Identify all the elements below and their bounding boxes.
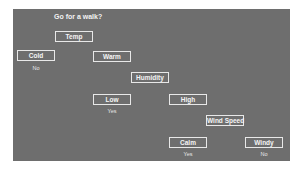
outcome-cold: No [16,65,56,71]
node-humidity: Humidity [131,72,169,83]
node-warm: Warm [93,51,131,62]
node-temp: Temp [55,31,93,42]
outcome-low: Yes [92,108,132,114]
diagram-title: Go for a walk? [54,13,102,20]
outcome-windy: No [244,151,284,157]
node-wind-speed: Wind Speed [206,115,244,126]
node-cold: Cold [17,50,55,61]
outcome-calm: Yes [168,151,208,157]
node-high: High [169,94,207,105]
node-calm: Calm [169,137,207,148]
node-low: Low [93,94,131,105]
node-windy: Windy [245,137,283,148]
